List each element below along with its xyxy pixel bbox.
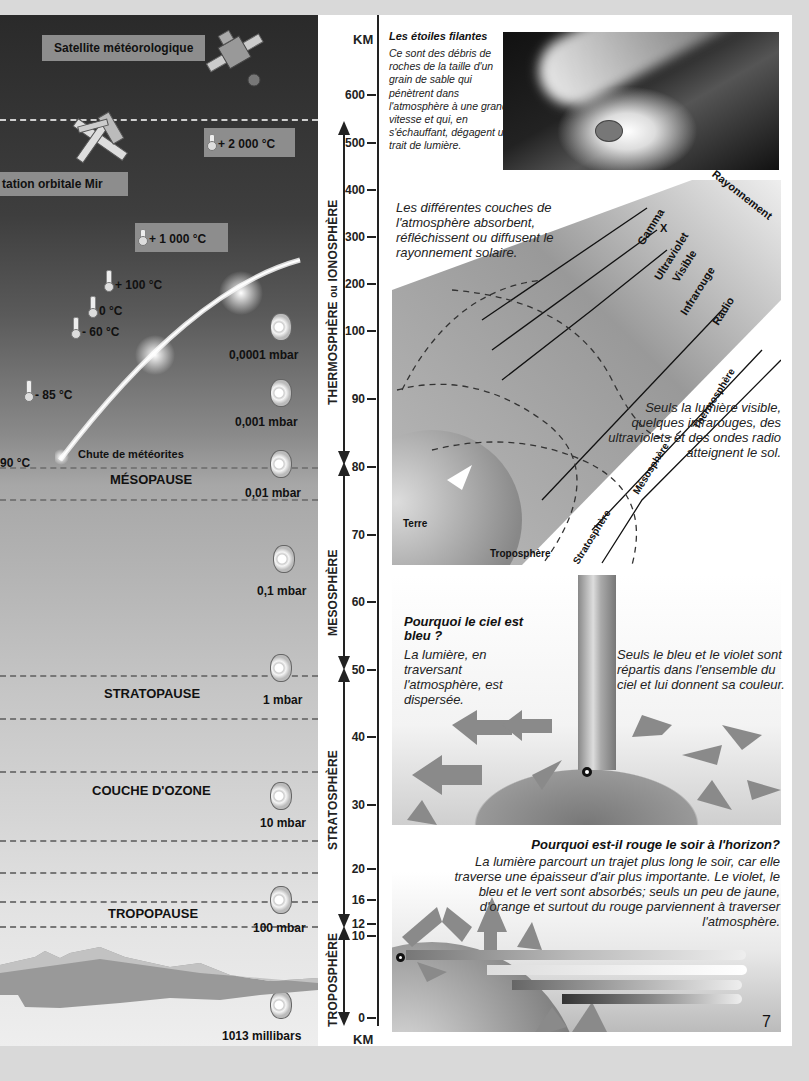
- light-beam: [512, 980, 742, 990]
- earth-label: Terre: [403, 518, 427, 529]
- pressure-label: 0,1 mbar: [257, 584, 306, 598]
- satellite-label: Satellite météorologique: [42, 35, 205, 61]
- temperature-2000: + 2 000 °C: [204, 128, 295, 157]
- observer-point-icon: [396, 953, 405, 962]
- thermometer-icon: [139, 229, 145, 246]
- mir-station-icon: [60, 105, 142, 180]
- pressure-label: 1 mbar: [263, 693, 302, 707]
- shooting-star-image: [503, 32, 779, 170]
- thermometer-icon: [208, 134, 214, 151]
- page-number: 7: [762, 1013, 771, 1031]
- altitude-tick: 400: [345, 183, 376, 197]
- band-x: X: [660, 222, 667, 234]
- meteor-trail: [527, 32, 779, 118]
- altitude-tick: 80: [352, 460, 376, 474]
- red-sunset-title: Pourquoi est-il rouge le soir à l'horizo…: [531, 837, 780, 852]
- altitude-tick: 10: [352, 929, 376, 943]
- shooting-stars-title: Les étoiles filantes: [389, 30, 487, 42]
- atmosphere-panel: [0, 15, 318, 1046]
- light-beam: [406, 950, 746, 960]
- barometer-icon: [270, 782, 292, 810]
- thermosphere-ionosphere-label: THERMOSPHÈRE ou IONOSPHÈRE: [326, 200, 340, 405]
- altitude-axis-line: [377, 15, 379, 1026]
- weather-satellite-icon: [200, 22, 272, 88]
- altitude-tick: 0: [358, 1011, 376, 1025]
- thermometer-icon: [25, 380, 31, 402]
- tropopause-label: TROPOPAUSE: [108, 906, 198, 921]
- pressure-label: 0,0001 mbar: [229, 348, 298, 362]
- observer-point-icon: [582, 767, 592, 777]
- altitude-tick: 70: [352, 528, 376, 542]
- mountains-illustration: [0, 945, 318, 1020]
- barometer-icon: [270, 450, 292, 478]
- sunlight-beam: [578, 575, 616, 770]
- altitude-tick: 30: [352, 798, 376, 812]
- barometer-icon: [270, 886, 292, 914]
- altitude-tick: 20: [352, 862, 376, 876]
- temperature-1000: + 1 000 °C: [135, 223, 228, 252]
- boundary-line-ozone-bottom: [0, 840, 318, 842]
- altitude-tick: 300: [345, 230, 376, 244]
- boundary-line-ozone-top: [0, 771, 318, 773]
- mesopause-label: MÉSOPAUSE: [110, 472, 192, 487]
- meteor-fall-label: Chute de météorites: [78, 448, 184, 460]
- altitude-tick: 16: [352, 893, 376, 907]
- altitude-tick: 600: [345, 88, 376, 102]
- blue-sky-right-text: Seuls le bleu et le violet sont répartis…: [617, 647, 792, 692]
- radiation-conclusion-text: Seuls la lumière visible, quelques infra…: [596, 400, 781, 460]
- altitude-tick: 40: [352, 730, 376, 744]
- boundary-line-stratopause-bottom: [0, 718, 318, 720]
- shooting-stars-text: Ce sont des débris de roches de la taill…: [389, 47, 519, 153]
- troposphere-label: TROPOSPHÈRE: [326, 933, 340, 1027]
- troposphere-range: [343, 938, 345, 1016]
- light-beam: [487, 965, 747, 975]
- altitude-tick: 500: [345, 136, 376, 150]
- blue-sky-left-text: La lumière, en traversant l'atmosphère, …: [404, 647, 524, 707]
- altitude-tick: 50: [352, 663, 376, 677]
- temperature-minus90: 90 °C: [0, 456, 30, 470]
- thermosphere-range: [343, 133, 345, 451]
- boundary-line-tropopause-top: [0, 872, 318, 874]
- red-sunset-text: La lumière parcourt un trajet plus long …: [440, 854, 780, 929]
- stratopause-label: STRATOPAUSE: [104, 686, 200, 701]
- ozone-layer-label: COUCHE D'OZONE: [92, 783, 211, 798]
- barometer-icon: [270, 313, 292, 341]
- mesosphere-range: [343, 474, 345, 656]
- mir-label: tation orbitale Mir: [0, 172, 128, 196]
- barometer-icon: [270, 654, 292, 682]
- pressure-label: 0,001 mbar: [235, 415, 298, 429]
- mesosphere-label: MESOSPHÈRE: [326, 549, 340, 636]
- boundary-line: [0, 119, 318, 121]
- pressure-label: 100 mbar: [253, 921, 306, 935]
- meteor-trail-illustration: [55, 255, 305, 470]
- pressure-label: 1013 millibars: [222, 1029, 301, 1043]
- pressure-label: 0,01 mbar: [245, 486, 301, 500]
- altitude-tick: 100: [345, 324, 376, 338]
- meteor-rock: [595, 120, 623, 142]
- altitude-tick: 60: [352, 595, 376, 609]
- radiation-intro-text: Les différentes couches de l'atmosphère …: [396, 200, 576, 260]
- blue-sky-title: Pourquoi le ciel est bleu ?: [404, 615, 524, 643]
- stratosphere-range: [343, 680, 345, 920]
- altitude-tick: 200: [345, 277, 376, 291]
- layer-troposphere: Troposphère: [490, 548, 551, 559]
- stratosphere-label: STRATOSPHÈRE: [326, 750, 340, 850]
- light-beam: [562, 994, 742, 1004]
- km-unit-bottom: KM: [353, 1032, 373, 1047]
- km-unit-top: KM: [353, 32, 373, 47]
- pressure-label: 10 mbar: [260, 816, 306, 830]
- barometer-icon: [273, 545, 295, 573]
- barometer-icon: [270, 379, 292, 407]
- altitude-tick: 90: [352, 392, 376, 406]
